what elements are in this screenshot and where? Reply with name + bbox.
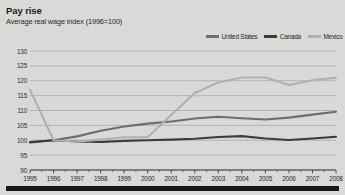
y-axis-tick-label: 125 <box>11 62 27 69</box>
x-axis-tick-label: 2000 <box>136 175 160 182</box>
x-axis-tick-label: 1997 <box>65 175 89 182</box>
x-axis-tick-label: 2001 <box>159 175 183 182</box>
y-axis-tick-label: 100 <box>11 137 27 144</box>
y-axis-tick-label: 95 <box>11 152 27 159</box>
x-axis-tick-label: 1995 <box>18 175 42 182</box>
x-axis-tick-label: 1999 <box>112 175 136 182</box>
x-axis-tick-label: 2003 <box>206 175 230 182</box>
y-axis-tick-label: 120 <box>11 77 27 84</box>
x-axis-tick-label: 2005 <box>253 175 277 182</box>
x-axis-tick-label: 2007 <box>300 175 324 182</box>
series-line-united-states <box>30 112 336 142</box>
y-axis-tick-label: 105 <box>11 122 27 129</box>
x-axis-tick-label: 1996 <box>42 175 66 182</box>
x-axis-tick-label: 2002 <box>183 175 207 182</box>
x-axis-tick-label: 1998 <box>89 175 113 182</box>
x-axis-tick-label: 2006 <box>277 175 301 182</box>
chart-plot-area <box>0 0 345 195</box>
y-axis-tick-label: 115 <box>11 92 27 99</box>
bottom-rule <box>6 186 339 191</box>
x-axis-tick-label: 2008 <box>324 175 345 182</box>
y-axis-tick-label: 110 <box>11 107 27 114</box>
series-line-mexico <box>30 77 336 141</box>
y-axis-tick-label: 90 <box>11 167 27 174</box>
x-axis-tick-label: 2004 <box>230 175 254 182</box>
chart-figure: Pay rise Average real wage index (1996=1… <box>0 0 345 195</box>
y-axis-tick-label: 130 <box>11 48 27 55</box>
